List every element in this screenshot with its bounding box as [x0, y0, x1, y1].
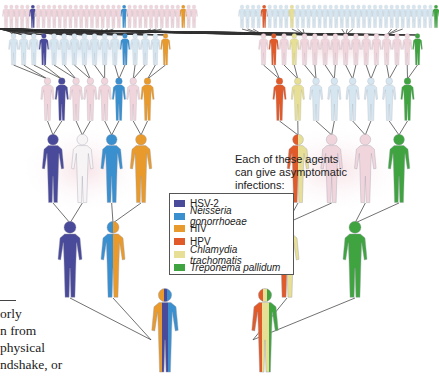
body-text-line-4: ndshake, or: [0, 356, 62, 373]
uninfected-person: [382, 78, 396, 121]
infected-person-hiv: [141, 78, 155, 121]
transmission-link: [70, 298, 151, 340]
transmission-link: [264, 65, 280, 79]
transmission-link: [399, 121, 408, 135]
legend-caption: Each of these agents can give asymptomat…: [235, 153, 395, 192]
legend-swatch-treponema: [174, 264, 185, 271]
legend-item-chlamydia: Chlamydia trachomatis: [174, 248, 289, 261]
infected-person-hpv: [273, 78, 287, 121]
caption-line-3: infections:: [235, 179, 395, 192]
legend-swatch-hpv: [174, 238, 185, 245]
uninfected-person: [41, 78, 55, 121]
transmission-link: [133, 121, 141, 135]
uninfected-person: [328, 78, 342, 121]
final-multiply-infected-person: [252, 288, 278, 372]
uninfected-person: [346, 78, 360, 121]
legend-swatch-chlamydia: [174, 251, 185, 258]
body-text-line-3: physical: [0, 339, 62, 356]
uninfected-person: [309, 78, 323, 121]
pathogen-legend: HSV-2 Neisseria gonorrhoeae HIV HPV Chla…: [169, 193, 294, 275]
transmission-link: [148, 65, 156, 79]
uninfected-person: [126, 78, 140, 121]
legend-swatch-neisseria: [174, 213, 185, 220]
infected-person-hsv2: [55, 78, 69, 121]
coinfected-person: [101, 221, 125, 297]
transmission-link: [408, 65, 418, 79]
transmission-link: [389, 65, 397, 79]
legend-label-hiv: HIV: [190, 223, 207, 234]
uninfected-person: [364, 78, 378, 121]
final-multiply-infected-person: [152, 288, 178, 372]
transmission-link: [148, 65, 166, 79]
transmission-link: [113, 298, 151, 340]
infected-person-neisseria: [112, 78, 126, 121]
legend-label-treponema: Treponema pallidum: [190, 262, 280, 273]
uninfected-person: [69, 78, 83, 121]
infected-person-treponema: [401, 78, 415, 121]
cropped-body-text: orly n from physical ndshake, or: [0, 305, 62, 373]
person-hsv2: [58, 221, 82, 297]
legend-swatch-hiv: [174, 225, 185, 232]
text-rule: [0, 300, 16, 301]
caption-line-2: can give asymptomatic: [235, 166, 395, 179]
person-treponema: [343, 221, 367, 297]
transmission-link: [141, 121, 148, 135]
transmission-link: [389, 121, 399, 135]
body-text-line-2: n from: [0, 322, 62, 339]
uninfected-person: [84, 78, 98, 121]
caption-line-1: Each of these agents: [235, 153, 395, 166]
legend-item-treponema: Treponema pallidum: [174, 261, 289, 274]
transmission-link: [280, 121, 299, 135]
body-text-line-1: orly: [0, 305, 62, 322]
uninfected-person: [98, 78, 112, 121]
infected-person-chlamydia: [291, 78, 305, 121]
legend-swatch-hsv2: [174, 200, 185, 207]
legend-item-neisseria: Neisseria gonorrhoeae: [174, 210, 289, 223]
